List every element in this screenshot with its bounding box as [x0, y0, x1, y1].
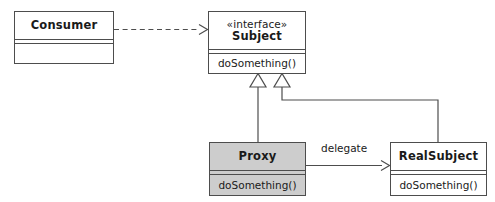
realsubject-members-compartment: doSomething()	[391, 175, 486, 195]
proxy-name-compartment: Proxy	[210, 143, 305, 171]
class-box-consumer[interactable]: Consumer	[14, 11, 114, 64]
proxy-members-compartment: doSomething()	[210, 175, 305, 195]
realization-proxy-to-subject	[250, 74, 266, 143]
class-box-proxy[interactable]: Proxy doSomething()	[209, 142, 306, 196]
realsubject-class-name: RealSubject	[399, 150, 478, 163]
subject-members-compartment: doSomething()	[209, 54, 305, 73]
realsubject-name-compartment: RealSubject	[391, 143, 486, 171]
class-box-realsubject[interactable]: RealSubject doSomething()	[390, 142, 487, 196]
consumer-class-name: Consumer	[31, 19, 98, 32]
consumer-name-compartment: Consumer	[15, 12, 113, 40]
subject-method-dosomething: doSomething()	[218, 57, 296, 69]
consumer-members-compartment	[15, 44, 113, 63]
class-box-subject[interactable]: «interface» Subject doSomething()	[208, 11, 306, 74]
realsubject-method-dosomething: doSomething()	[399, 179, 477, 191]
edge-label-delegate: delegate	[321, 142, 367, 154]
dependency-consumer-to-subject	[114, 25, 208, 35]
subject-class-name: Subject	[232, 30, 282, 43]
realization-realsubject-to-subject	[274, 74, 438, 143]
proxy-class-name: Proxy	[239, 150, 277, 163]
association-proxy-to-realsubject	[306, 161, 390, 171]
proxy-method-dosomething: doSomething()	[218, 179, 296, 191]
uml-diagram-canvas: Subject (dashed, open arrowhead) --> Rea…	[0, 0, 495, 202]
subject-name-compartment: «interface» Subject	[209, 12, 305, 50]
